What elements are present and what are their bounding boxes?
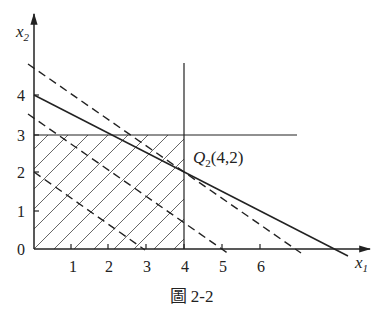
x-tick-label: 4 — [181, 258, 189, 275]
x-tick-label: 1 — [69, 258, 77, 275]
figure-caption: 圖 2-2 — [0, 282, 383, 307]
x-axis-label: x1 — [354, 253, 368, 274]
lp-diagram: 1 2 3 4 5 6 0 1 2 3 4 x2 x1 Q2(4,2) — [0, 0, 383, 315]
x-tick-label: 2 — [105, 258, 113, 275]
y-tick-label: 3 — [17, 127, 25, 144]
constraint-line-sloped — [34, 95, 348, 256]
y-tick-label: 1 — [17, 203, 25, 220]
y-axis-label: x2 — [15, 22, 30, 43]
x-tick-label: 6 — [257, 258, 265, 275]
point-q2-label: Q2(4,2) — [193, 148, 243, 169]
y-tick-label: 4 — [17, 87, 25, 104]
origin-label: 0 — [17, 241, 25, 258]
y-tick-label: 2 — [17, 164, 25, 181]
x-tick-label: 3 — [143, 258, 151, 275]
x-tick-label: 5 — [219, 258, 227, 275]
